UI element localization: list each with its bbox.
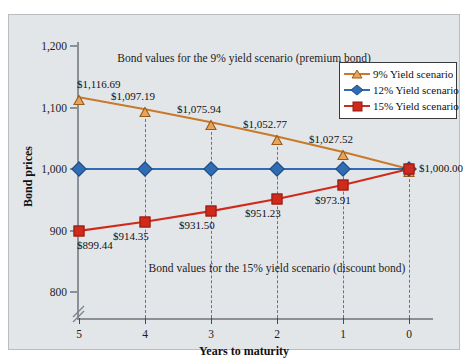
y-tick	[70, 107, 77, 109]
data-label: $1,027.52	[309, 133, 353, 145]
chart-panel: 8009001,0001,1001,200 543210 $1,116.69$1…	[8, 14, 460, 350]
square-marker	[404, 164, 415, 175]
y-tick	[70, 45, 77, 47]
data-label: $1,116.69	[77, 78, 121, 90]
square-marker	[272, 193, 283, 204]
data-label: $1,000.00	[419, 162, 463, 174]
data-label: $1,097.19	[111, 90, 155, 102]
data-label: $951.23	[245, 207, 281, 219]
triangle-marker	[271, 131, 283, 142]
triangle-marker	[73, 92, 85, 103]
square-marker	[206, 206, 217, 217]
legend-item[interactable]: 12% Yield scenario	[344, 82, 452, 98]
data-label: $1,052.77	[243, 118, 287, 130]
triangle-marker	[205, 117, 217, 128]
data-label: $914.35	[113, 230, 149, 242]
x-tick-label: 0	[406, 328, 412, 340]
legend-label: 15% Yield scenario	[370, 100, 459, 112]
legend: 9% Yield scenario 12% Yield scenario	[339, 62, 457, 119]
data-label: $899.44	[77, 239, 113, 251]
legend-label: 12% Yield scenario	[370, 84, 459, 96]
y-tick-label: 900	[7, 225, 67, 237]
x-tick-label: 3	[208, 328, 214, 340]
triangle-marker-icon	[344, 67, 370, 81]
chart-screenshot: 8009001,0001,1001,200 543210 $1,116.69$1…	[0, 0, 470, 362]
square-marker	[74, 225, 85, 236]
diamond-marker-icon	[344, 83, 370, 97]
data-label: $973.91	[315, 194, 351, 206]
triangle-marker	[337, 147, 349, 158]
annotation-text: Bond values for the 15% yield scenario (…	[149, 262, 406, 274]
y-tick-label: 1,000	[7, 163, 67, 175]
y-tick-label: 1,200	[7, 40, 67, 52]
x-tick-label: 2	[274, 328, 280, 340]
square-marker-icon	[344, 99, 370, 113]
x-tick-label: 5	[76, 328, 82, 340]
data-label: $931.50	[179, 219, 215, 231]
x-tick-label: 1	[340, 328, 346, 340]
y-tick-label: 800	[7, 286, 67, 298]
legend-item[interactable]: 9% Yield scenario	[344, 66, 452, 82]
y-tick	[70, 291, 77, 293]
square-marker	[140, 216, 151, 227]
legend-item[interactable]: 15% Yield scenario	[344, 98, 452, 114]
legend-label: 9% Yield scenario	[370, 68, 453, 80]
x-axis-title: Years to maturity	[199, 344, 289, 359]
annotation-text: Bond values for the 9% yield scenario (p…	[117, 52, 371, 64]
y-tick-label: 1,100	[7, 102, 67, 114]
series-line	[79, 169, 409, 231]
x-tick-label: 4	[142, 328, 148, 340]
data-label: $1,075.94	[177, 103, 221, 115]
triangle-marker	[139, 104, 151, 115]
y-axis-title: Bond prices	[21, 146, 36, 207]
square-marker	[338, 180, 349, 191]
